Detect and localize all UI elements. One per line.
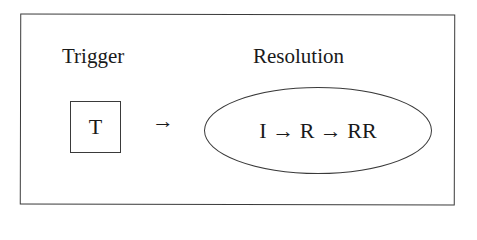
resolution-heading: Resolution <box>253 46 344 67</box>
trigger-heading: Trigger <box>62 46 124 67</box>
trigger-box: T <box>70 101 121 153</box>
resolution-sequence: I → R → RR <box>259 118 376 144</box>
resolution-ellipse: I → R → RR <box>204 87 432 174</box>
right-arrow-icon: → <box>152 110 174 132</box>
trigger-box-label: T <box>89 114 102 140</box>
